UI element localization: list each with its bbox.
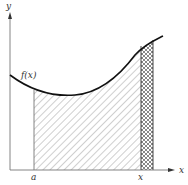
x-axis-label: x bbox=[179, 165, 184, 175]
y-axis-label: y bbox=[5, 1, 12, 11]
curve-label: f(x) bbox=[20, 70, 37, 80]
upper-point-label: x bbox=[138, 172, 143, 182]
integral-diagram: y x f(x) a x bbox=[0, 0, 188, 185]
hatched-area bbox=[34, 0, 153, 170]
lower-limit-label: a bbox=[31, 172, 36, 182]
x-axis-arrow-icon bbox=[168, 168, 175, 172]
y-axis-arrow-icon bbox=[8, 12, 12, 19]
